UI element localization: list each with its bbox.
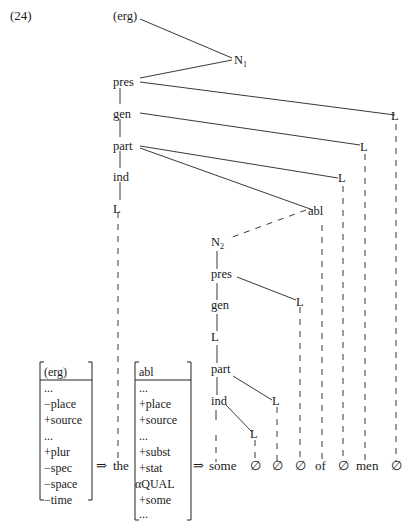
node-l-mid: L	[211, 330, 219, 344]
node-erg: (erg)	[113, 9, 137, 23]
surface-string: some ∅ ∅ ∅ of ∅ men ∅	[209, 458, 402, 473]
dependency-tree-diagram: (24) (erg) N1 pres gen part ind L L L L …	[0, 0, 414, 530]
node-gen: gen	[113, 107, 132, 121]
matrix-abl-feature: αQUAL	[135, 477, 175, 491]
node-l-pres-lower: L	[296, 295, 304, 309]
matrix-erg-feature: −space	[44, 477, 77, 491]
matrix-erg-feature: −place	[44, 397, 76, 411]
node-l-ind-lower: L	[250, 427, 258, 441]
node-l-pres: L	[391, 109, 399, 123]
matrix-erg-feature: −spec	[44, 461, 72, 475]
matrix-erg-header: (erg)	[44, 365, 67, 379]
matrix-abl-feature: +stat	[139, 461, 163, 475]
node-abl: abl	[308, 204, 324, 218]
matrix-erg-feature: ...	[44, 429, 53, 443]
projection-lines	[118, 124, 396, 462]
arrow-2: ⇒	[193, 458, 204, 473]
matrix-abl-feature: +some	[139, 493, 171, 507]
node-pres: pres	[113, 75, 134, 89]
word-men: men	[356, 458, 379, 473]
upper-tree-edges	[120, 19, 395, 210]
node-part-lower: part	[211, 362, 231, 376]
node-l-part-lower: L	[272, 394, 280, 408]
node-l-gen: L	[360, 140, 368, 154]
feature-matrix-abl: abl ... +place +source ... +subst +stat …	[135, 362, 191, 521]
node-gen-lower: gen	[211, 298, 230, 312]
word-null: ∅	[272, 458, 283, 473]
node-ind: ind	[113, 170, 130, 184]
matrix-abl-feature: ...	[139, 381, 148, 395]
word-the: the	[113, 458, 129, 473]
word-null: ∅	[250, 458, 261, 473]
matrix-abl-feature: ...	[139, 507, 148, 521]
word-of: of	[315, 458, 327, 473]
matrix-abl-feature: +place	[139, 397, 171, 411]
word-null: ∅	[391, 458, 402, 473]
feature-matrix-erg: (erg) ... −place +source ... +plur −spec…	[40, 362, 92, 507]
node-l-left: L	[113, 202, 121, 216]
arrow-1: ⇒	[96, 458, 107, 473]
matrix-abl-feature: +subst	[139, 445, 171, 459]
example-number: (24)	[10, 8, 32, 23]
matrix-erg-feature: +source	[44, 413, 82, 427]
matrix-abl-feature: +source	[139, 413, 177, 427]
matrix-erg-feature: +plur	[44, 445, 70, 459]
node-n2: N2	[211, 235, 224, 251]
matrix-abl-header: abl	[139, 365, 154, 379]
matrix-erg-feature: −time	[44, 493, 72, 507]
node-l-part: L	[338, 171, 346, 185]
matrix-erg-feature: ...	[44, 381, 53, 395]
node-ind-lower: ind	[211, 394, 228, 408]
node-n1: N1	[234, 53, 247, 69]
word-some: some	[209, 458, 237, 473]
word-null: ∅	[338, 458, 349, 473]
matrix-abl-feature: ...	[139, 429, 148, 443]
node-pres-lower: pres	[211, 267, 232, 281]
word-null: ∅	[295, 458, 306, 473]
node-part: part	[113, 139, 133, 153]
